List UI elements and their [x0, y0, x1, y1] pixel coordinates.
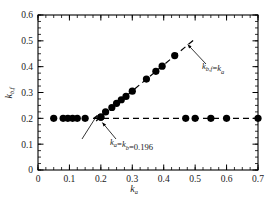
bifurcation-scatter-plot: 00.10.20.30.40.50.60.7 00.10.20.30.40.50…: [0, 0, 270, 200]
y-tick-label: 0.3: [21, 88, 33, 98]
x-tick-label: 0.7: [252, 174, 264, 184]
y-tick-label: 0.1: [21, 140, 33, 150]
y-tick-label: 0.5: [21, 36, 33, 46]
data-point: [207, 115, 214, 122]
x-axis-title-sub: a: [135, 188, 138, 195]
x-tick-label: 0.1: [63, 174, 75, 184]
data-point: [143, 75, 150, 82]
data-point: [223, 115, 230, 122]
y-tick-label: 0.4: [21, 62, 33, 72]
data-point: [50, 115, 57, 122]
chart-figure: 00.10.20.30.40.50.60.7 00.10.20.30.40.50…: [0, 0, 270, 200]
data-point: [152, 68, 159, 75]
x-tick-label: 0.6: [221, 174, 233, 184]
x-tick-label: 0: [36, 174, 41, 184]
x-tick-label: 0.2: [95, 174, 107, 184]
y-tick-label: 0.6: [21, 10, 33, 20]
data-point: [129, 88, 136, 95]
data-point: [82, 115, 89, 122]
data-point: [254, 115, 261, 122]
y-tick-label: 0: [28, 165, 33, 175]
x-tick-label: 0.4: [158, 174, 170, 184]
data-point: [122, 93, 129, 100]
data-point: [171, 52, 178, 59]
data-point: [192, 115, 199, 122]
data-point: [74, 115, 81, 122]
data-point: [182, 115, 189, 122]
y-tick-label: 0.2: [21, 114, 33, 124]
x-tick-label: 0.5: [189, 174, 201, 184]
data-point: [102, 108, 109, 115]
data-point: [159, 63, 166, 70]
